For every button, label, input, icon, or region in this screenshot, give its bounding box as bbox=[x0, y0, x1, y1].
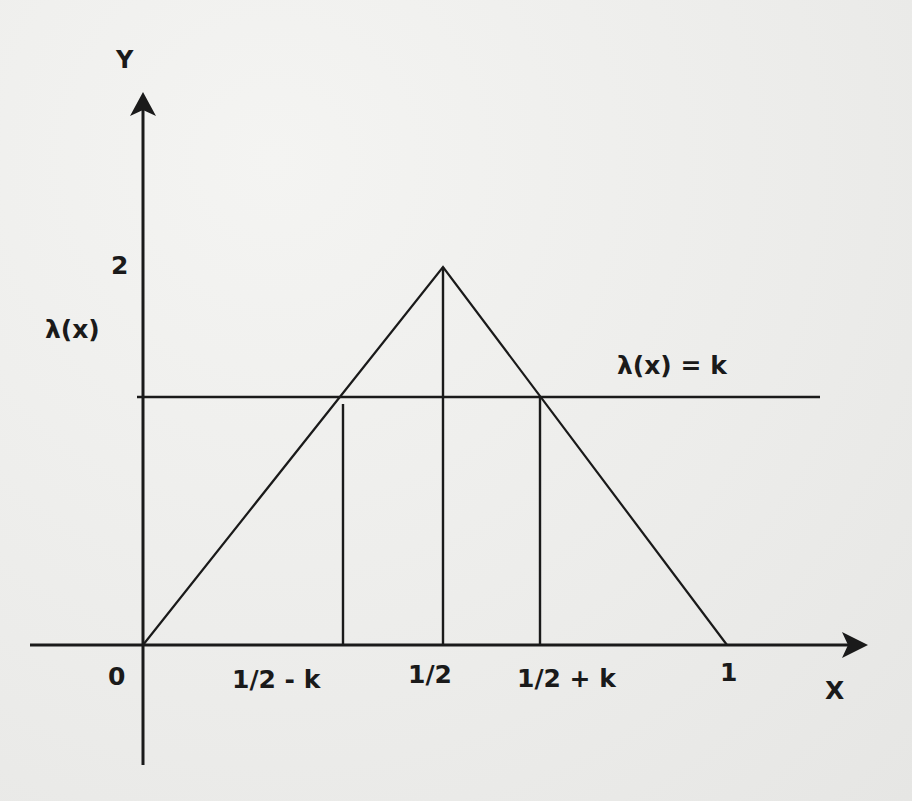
triangle-function-line bbox=[143, 267, 727, 645]
y-axis-label: Y bbox=[116, 48, 133, 72]
x-tick-half-plus-k: 1/2 + k bbox=[517, 666, 616, 691]
constant-line-label: λ(x) = k bbox=[617, 353, 727, 378]
y-tick-function-label: λ(x) bbox=[45, 317, 100, 342]
x-tick-0: 0 bbox=[108, 664, 125, 689]
y-tick-peak: 2 bbox=[111, 253, 128, 278]
x-tick-half-minus-k: 1/2 - k bbox=[232, 667, 320, 692]
x-axis-label: X bbox=[825, 678, 844, 703]
x-tick-1: 1 bbox=[720, 660, 737, 685]
diagram-graphics bbox=[0, 0, 912, 801]
diagram-canvas: Y X 2 λ(x) λ(x) = k 0 1/2 - k 1/2 1/2 + … bbox=[0, 0, 912, 801]
x-tick-half: 1/2 bbox=[408, 662, 452, 687]
